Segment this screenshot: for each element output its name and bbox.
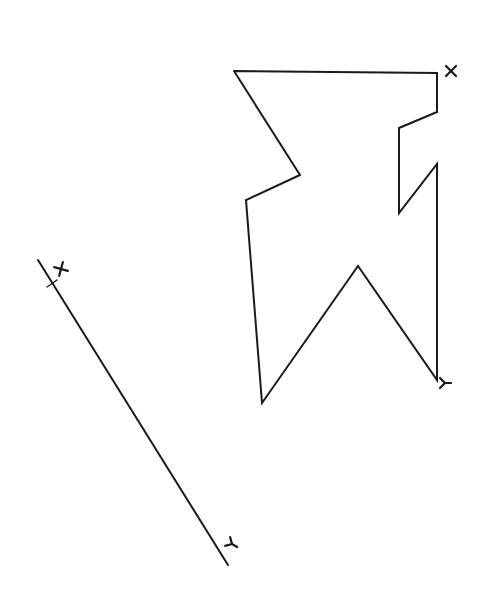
contour-start-label-x <box>446 66 456 76</box>
contour-end-label-y <box>440 378 451 388</box>
irregular-contour-path <box>234 71 437 403</box>
line-end-label-y <box>225 537 240 551</box>
straight-reference-line <box>38 260 228 565</box>
line-start-label-x <box>54 262 68 276</box>
figure-canvas <box>0 0 479 590</box>
